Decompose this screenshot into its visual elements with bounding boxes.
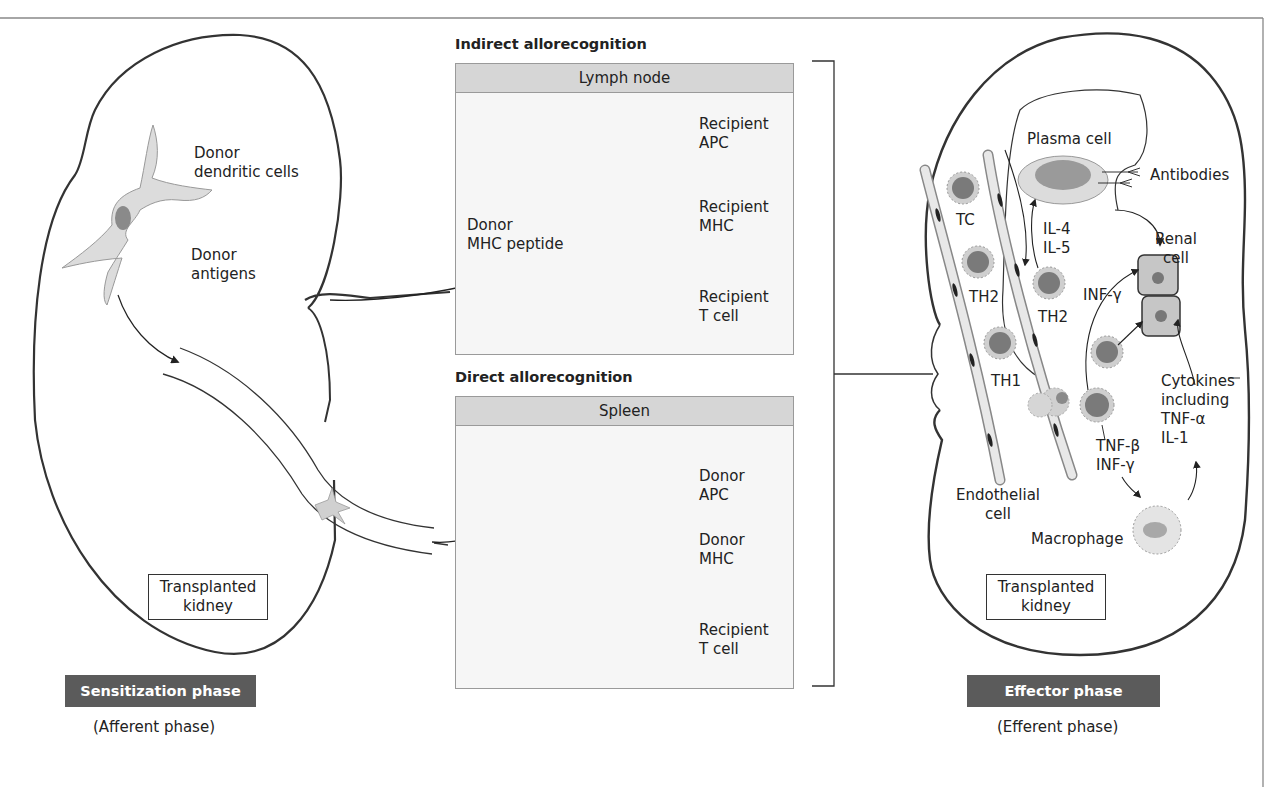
inf-gamma-top-label: INF-γ [1083, 286, 1122, 305]
th1-label: TH1 [991, 372, 1021, 391]
il-5-label: IL-5 [1043, 239, 1070, 258]
label-line: Recipient [699, 288, 769, 307]
recipient-t-cell-label-indirect: Recipient T cell [699, 288, 769, 326]
antibodies-label: Antibodies [1150, 166, 1229, 185]
label-line: APC [699, 486, 745, 505]
label-line: Transplanted [993, 578, 1099, 597]
recipient-t-cell-label-direct: Recipient T cell [699, 621, 769, 659]
lymph-node-panel-title: Lymph node [456, 64, 793, 93]
label-line: APC [699, 134, 769, 153]
label-line: Endothelial [956, 486, 1040, 505]
donor-dendritic-cells-label: Donor dendritic cells [194, 144, 299, 182]
endothelial-cell-label: Endothelial cell [956, 486, 1040, 524]
label-line: Recipient [699, 198, 769, 217]
label-line: antigens [191, 265, 256, 284]
allorecognition-diagram: Donor dendritic cells Donor antigens Tra… [0, 0, 1280, 787]
label-line: kidney [155, 597, 261, 616]
label-line: cell [1155, 249, 1197, 268]
label-line: Donor [467, 216, 564, 235]
recipient-apc-label: Recipient APC [699, 115, 769, 153]
afferent-phase-label: (Afferent phase) [93, 718, 215, 736]
label-line: Renal [1155, 230, 1197, 249]
th2-left-label: TH2 [969, 288, 999, 307]
tc-label: TC [956, 211, 975, 230]
label-line: Donor [699, 531, 745, 550]
right-kidney-graphics [925, 33, 1249, 655]
direct-allorecognition-heading: Direct allorecognition [455, 369, 633, 385]
il-labels: IL-4 IL-5 [1043, 220, 1070, 258]
label-line: Donor [191, 246, 256, 265]
bracket [812, 61, 933, 686]
label-line: Transplanted [155, 578, 261, 597]
inf-gamma-bottom-label: INF-γ [1096, 456, 1140, 475]
sensitization-phase-bar: Sensitization phase [65, 675, 256, 707]
cytokines-label: Cytokines including TNF-α IL-1 [1161, 372, 1235, 448]
effector-phase-bar: Effector phase [967, 675, 1160, 707]
tnf-beta-label: TNF-β [1096, 437, 1140, 456]
macrophage-label: Macrophage [1031, 530, 1123, 549]
plasma-cell-label: Plasma cell [1027, 130, 1112, 149]
right-transplanted-kidney-box: Transplanted kidney [986, 574, 1106, 620]
label-line: cell [956, 505, 1040, 524]
label-line: T cell [699, 640, 769, 659]
tnf-beta-inf-gamma-label: TNF-β INF-γ [1096, 437, 1140, 475]
label-line: including [1161, 391, 1235, 410]
label-line: Recipient [699, 621, 769, 640]
efferent-phase-label: (Efferent phase) [997, 718, 1118, 736]
label-line: MHC peptide [467, 235, 564, 254]
donor-mhc-peptide-label: Donor MHC peptide [467, 216, 564, 254]
donor-antigens-label: Donor antigens [191, 246, 256, 284]
label-line: MHC [699, 217, 769, 236]
renal-cell-label: Renal cell [1155, 230, 1197, 268]
label-line: Cytokines [1161, 372, 1235, 391]
th2-right-label: TH2 [1038, 308, 1068, 327]
left-transplanted-kidney-box: Transplanted kidney [148, 574, 268, 620]
label-line: dendritic cells [194, 163, 299, 182]
label-line: TNF-α [1161, 410, 1235, 429]
label-line: kidney [993, 597, 1099, 616]
label-line: MHC [699, 550, 745, 569]
label-line: Recipient [699, 115, 769, 134]
donor-mhc-label: Donor MHC [699, 531, 745, 569]
label-line: IL-1 [1161, 429, 1235, 448]
label-line: Donor [194, 144, 299, 163]
donor-apc-label: Donor APC [699, 467, 745, 505]
label-line: T cell [699, 307, 769, 326]
indirect-allorecognition-heading: Indirect allorecognition [455, 36, 647, 52]
spleen-panel-title: Spleen [456, 397, 793, 426]
il-4-label: IL-4 [1043, 220, 1070, 239]
label-line: Donor [699, 467, 745, 486]
recipient-mhc-label: Recipient MHC [699, 198, 769, 236]
